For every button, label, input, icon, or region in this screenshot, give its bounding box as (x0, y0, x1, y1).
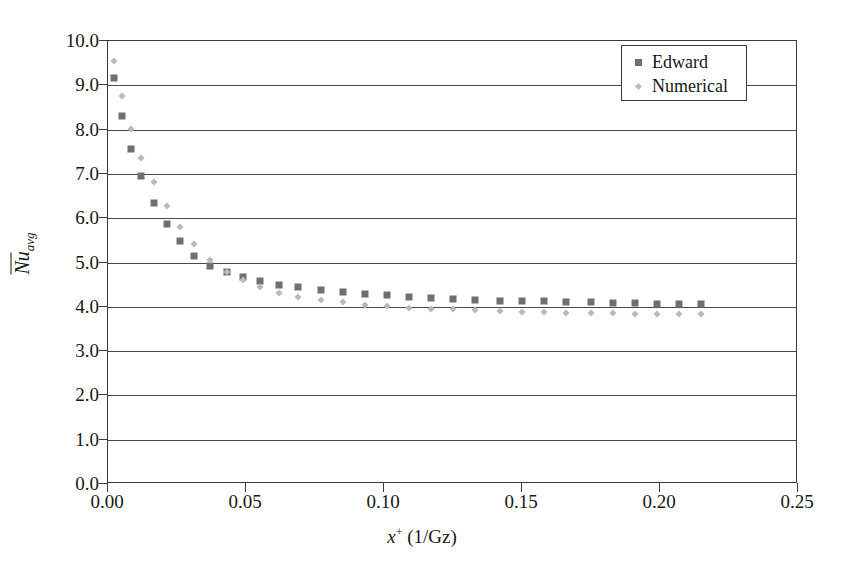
data-point-edward (295, 284, 302, 291)
data-point-numerical (449, 306, 456, 313)
data-point-numerical (127, 126, 134, 133)
data-point-numerical (177, 223, 184, 230)
legend-label-edward: Edward (652, 52, 708, 73)
data-point-edward (177, 237, 184, 244)
data-point-numerical (654, 310, 661, 317)
data-point-numerical (472, 307, 479, 314)
y-axis-tick-label: 2.0 (75, 385, 99, 404)
x-axis-title-units: (1/Gz) (402, 526, 456, 547)
data-point-edward (563, 298, 570, 305)
data-point-numerical (164, 202, 171, 209)
x-axis-title-symbol: x (387, 526, 395, 547)
data-point-numerical (496, 308, 503, 315)
data-point-numerical (541, 309, 548, 316)
data-point-edward (137, 173, 144, 180)
data-point-edward (588, 299, 595, 306)
y-axis-tick-label: 0.0 (75, 474, 99, 493)
legend: Edward Numerical (621, 45, 747, 101)
data-point-edward (276, 281, 283, 288)
y-axis-tick-label: 7.0 (75, 163, 99, 182)
data-point-numerical (111, 57, 118, 64)
data-point-edward (118, 112, 125, 119)
data-point-edward (519, 298, 526, 305)
data-point-edward (339, 288, 346, 295)
y-axis-tick-labels: 0.01.02.03.04.05.06.07.08.09.010.0 (45, 0, 99, 564)
data-point-edward (190, 252, 197, 259)
data-point-edward (150, 199, 157, 206)
data-point-edward (450, 295, 457, 302)
data-point-edward (610, 299, 617, 306)
data-point-edward (361, 290, 368, 297)
data-point-numerical (118, 93, 125, 100)
legend-item-edward: Edward (631, 50, 746, 74)
gridline (108, 130, 796, 131)
chart-figure: 0.01.02.03.04.05.06.07.08.09.010.0 0.000… (0, 0, 844, 564)
y-axis-tick-label: 5.0 (75, 252, 99, 271)
data-point-numerical (383, 303, 390, 310)
data-point-numerical (610, 310, 617, 317)
y-axis-tick-label: 10.0 (66, 31, 99, 50)
y-axis-title-symbol: Nu (11, 251, 34, 274)
data-point-edward (111, 75, 118, 82)
legend-label-numerical: Numerical (652, 76, 728, 97)
data-point-numerical (295, 294, 302, 301)
data-point-edward (472, 296, 479, 303)
data-point-edward (427, 294, 434, 301)
data-point-numerical (276, 289, 283, 296)
data-point-edward (541, 298, 548, 305)
legend-item-numerical: Numerical (631, 74, 746, 98)
gridline (108, 395, 796, 396)
data-point-edward (164, 220, 171, 227)
data-point-numerical (339, 299, 346, 306)
legend-marker-diamond-icon (631, 84, 645, 89)
data-point-edward (405, 293, 412, 300)
data-point-edward (698, 301, 705, 308)
data-point-numerical (676, 311, 683, 318)
gridline (108, 174, 796, 175)
data-point-numerical (563, 309, 570, 316)
x-axis-tick-label: 0.05 (228, 492, 261, 511)
x-axis-tick-label: 0.00 (90, 492, 123, 511)
data-point-edward (654, 300, 661, 307)
data-point-edward (383, 292, 390, 299)
y-axis-tick-label: 3.0 (75, 341, 99, 360)
data-point-numerical (632, 310, 639, 317)
y-axis-tick-label: 4.0 (75, 296, 99, 315)
y-axis-tick-label: 9.0 (75, 75, 99, 94)
data-point-edward (317, 286, 324, 293)
gridline (108, 218, 796, 219)
y-axis-tick-label: 6.0 (75, 208, 99, 227)
data-point-edward (676, 300, 683, 307)
data-point-numerical (518, 308, 525, 315)
data-point-edward (127, 145, 134, 152)
data-point-edward (496, 297, 503, 304)
data-point-edward (632, 300, 639, 307)
data-point-numerical (317, 297, 324, 304)
data-point-numerical (405, 304, 412, 311)
legend-marker-square-icon (631, 59, 645, 66)
data-point-numerical (137, 154, 144, 161)
x-axis-tick-label: 0.20 (642, 492, 675, 511)
y-axis-title: Nuavg (11, 204, 38, 304)
gridline (108, 440, 796, 441)
plot-area (107, 40, 797, 483)
x-axis-tick-label: 0.10 (366, 492, 399, 511)
data-point-numerical (698, 311, 705, 318)
y-axis-title-subscript: avg (22, 232, 37, 251)
data-point-numerical (587, 309, 594, 316)
gridline (108, 351, 796, 352)
y-axis-tick-label: 1.0 (75, 429, 99, 448)
x-axis-tick-label: 0.25 (780, 492, 813, 511)
x-axis-title: x+ (1/Gz) (0, 525, 844, 548)
y-axis-tick-label: 8.0 (75, 119, 99, 138)
x-axis-tick-label: 0.15 (504, 492, 537, 511)
data-point-numerical (190, 241, 197, 248)
data-point-numerical (150, 178, 157, 185)
